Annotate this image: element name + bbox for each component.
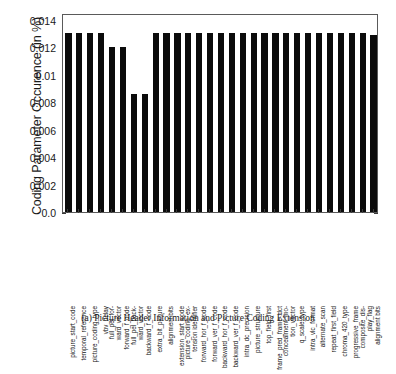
bar	[218, 33, 224, 212]
bar	[272, 33, 278, 212]
bar	[305, 33, 311, 212]
x-tick-mark	[264, 209, 265, 213]
x-tick-mark	[231, 209, 232, 213]
y-tick-label: 0.01	[0, 70, 56, 82]
x-tick-mark	[111, 209, 112, 213]
bar	[240, 33, 246, 212]
y-axis-title: Coding Parameter Occurence (in %)	[27, 6, 47, 226]
x-tick-mark	[209, 209, 210, 213]
x-tick-mark	[67, 209, 68, 213]
bar	[65, 33, 71, 212]
bar	[349, 33, 355, 212]
bar	[251, 33, 257, 212]
bar	[294, 33, 300, 212]
y-tick-label: 0.012	[0, 42, 56, 54]
x-tick-mark	[220, 209, 221, 213]
bar	[370, 35, 376, 212]
x-tick-mark	[307, 209, 308, 213]
bar	[196, 33, 202, 212]
x-tick-mark	[187, 209, 188, 213]
x-axis-tick-labels: picture_start_codetemporal_referencepict…	[62, 214, 378, 309]
bar	[261, 33, 267, 212]
bar	[98, 33, 104, 212]
x-tick-mark	[362, 209, 363, 213]
bar-series	[63, 15, 377, 212]
x-tick-mark	[144, 209, 145, 213]
x-tick-mark	[329, 209, 330, 213]
bar	[338, 33, 344, 212]
y-tick-label: 0.008	[0, 97, 56, 109]
x-tick-mark	[351, 209, 352, 213]
y-tick-label: 0.002	[0, 180, 56, 192]
y-tick-label: 0.0	[0, 207, 56, 219]
plot-area	[62, 14, 378, 213]
x-tick-label: alignment bits	[375, 306, 382, 345]
x-tick-mark	[198, 209, 199, 213]
bar	[131, 94, 137, 212]
y-tick-label: 0.004	[0, 152, 56, 164]
bar	[120, 47, 126, 213]
x-tick-mark	[318, 209, 319, 213]
bar	[174, 33, 180, 212]
x-tick-mark	[296, 209, 297, 213]
bar	[283, 33, 289, 212]
bar	[185, 33, 191, 212]
x-tick-label: top_field_first	[266, 306, 273, 343]
bar	[142, 94, 148, 212]
x-tick-mark	[78, 209, 79, 213]
bar	[229, 33, 235, 212]
y-tick-label: 0.006	[0, 125, 56, 137]
x-tick-mark	[122, 209, 123, 213]
x-tick-label: alignment bits	[168, 306, 175, 345]
x-tick-mark	[253, 209, 254, 213]
x-tick-label: q_scale_type	[299, 306, 306, 343]
bar	[163, 33, 169, 212]
x-tick-mark	[176, 209, 177, 213]
bar	[316, 33, 322, 212]
figure-caption: (a) Picture Header Information and Pictu…	[0, 313, 396, 323]
x-tick-mark	[166, 209, 167, 213]
x-tick-mark	[285, 209, 286, 213]
x-tick-mark	[274, 209, 275, 213]
x-tick-mark	[373, 209, 374, 213]
x-tick-mark	[133, 209, 134, 213]
y-tick-label: 0.014	[0, 15, 56, 27]
x-tick-mark	[340, 209, 341, 213]
x-tick-mark	[242, 209, 243, 213]
x-tick-mark	[100, 209, 101, 213]
x-tick-mark	[89, 209, 90, 213]
bar	[153, 33, 159, 212]
bar	[327, 33, 333, 212]
bar	[360, 33, 366, 212]
x-tick-mark	[155, 209, 156, 213]
bar	[207, 33, 213, 212]
bar	[76, 33, 82, 212]
bar	[87, 33, 93, 212]
bar	[109, 47, 115, 213]
x-tick-label-line: full_pel_back-	[130, 306, 137, 345]
